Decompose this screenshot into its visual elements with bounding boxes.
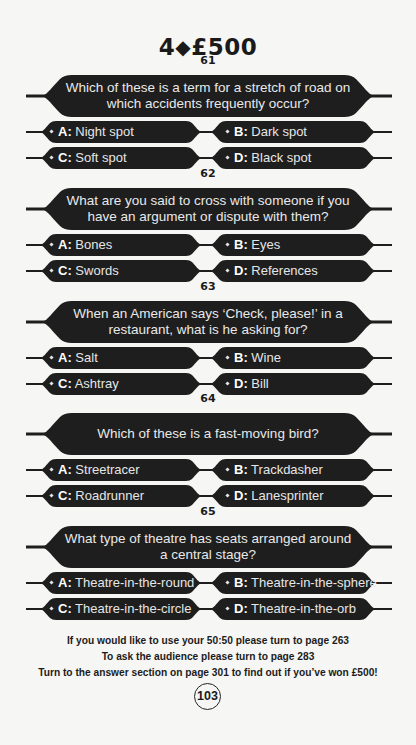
diamond-bullet-icon (49, 129, 53, 133)
answer-text: Theatre-in-the-round (75, 575, 194, 590)
answer-letter: A: (58, 462, 72, 477)
answer-letter: C: (58, 150, 72, 165)
answer-option-b[interactable]: B: Trackdasher (200, 459, 392, 481)
answer-label: A: Night spot (50, 121, 134, 143)
answer-label: B: Dark spot (226, 121, 307, 143)
answer-label: D: Theatre-in-the-orb (226, 598, 356, 620)
diamond-bullet-icon (225, 580, 229, 584)
diamond-bullet-icon (225, 242, 229, 246)
answer-option-d[interactable]: D: Black spot (200, 147, 392, 169)
answer-option-b[interactable]: B: Dark spot (200, 121, 392, 143)
answer-option-d[interactable]: D: Bill (200, 373, 392, 395)
diamond-bullet-icon (49, 268, 53, 272)
answer-option-d[interactable]: D: Lanesprinter (200, 485, 392, 507)
diamond-bullet-icon (49, 606, 53, 610)
answer-option-a[interactable]: A: Night spot (26, 121, 214, 143)
answer-text: Lanesprinter (251, 488, 323, 503)
answer-text: Streetracer (75, 462, 139, 477)
question-banner: Which of these is a fast-moving bird? (0, 413, 416, 455)
answer-text: Black spot (251, 150, 311, 165)
answer-option-c[interactable]: C: Roadrunner (26, 485, 214, 507)
answer-label: A: Bones (50, 234, 112, 256)
answer-option-c[interactable]: C: Theatre-in-the-circle (26, 598, 214, 620)
answer-text: Theatre-in-the-orb (251, 601, 356, 616)
answer-option-a[interactable]: A: Streetracer (26, 459, 214, 481)
question-number: 61 (0, 55, 416, 67)
question-text: What type of theatre has seats arranged … (60, 526, 356, 568)
answer-text: References (251, 263, 317, 278)
page-number: 103 (194, 683, 221, 710)
answer-label: C: Theatre-in-the-circle (50, 598, 191, 620)
answer-label: B: Eyes (226, 234, 280, 256)
answer-option-c[interactable]: C: Ashtray (26, 373, 214, 395)
answer-letter: D: (234, 263, 248, 278)
ask-audience-instruction: To ask the audience please turn to page … (0, 649, 416, 665)
diamond-bullet-icon (49, 467, 53, 471)
diamond-bullet-icon (225, 606, 229, 610)
answer-label: B: Wine (226, 347, 281, 369)
answer-option-c[interactable]: C: Soft spot (26, 147, 214, 169)
answer-option-a[interactable]: A: Bones (26, 234, 214, 256)
question-banner: When an American says ‘Check, please!’ i… (0, 301, 416, 343)
answer-text: Wine (251, 350, 281, 365)
answer-option-b[interactable]: B: Wine (200, 347, 392, 369)
answer-text: Trackdasher (251, 462, 323, 477)
answer-label: C: Swords (50, 260, 119, 282)
answer-label: D: Lanesprinter (226, 485, 324, 507)
fifty-fifty-instruction: If you would like to use your 50:50 plea… (0, 633, 416, 649)
answer-letter: C: (58, 488, 72, 503)
answer-letter: B: (234, 124, 248, 139)
answer-text: Ashtray (75, 376, 119, 391)
diamond-bullet-icon (49, 242, 53, 246)
answer-text: Eyes (251, 237, 280, 252)
answer-letter: D: (234, 601, 248, 616)
answer-text: Night spot (75, 124, 134, 139)
answer-text: Roadrunner (75, 488, 144, 503)
answer-letter: C: (58, 601, 72, 616)
answer-text: Theatre-in-the-sphere (251, 575, 377, 590)
answer-option-a[interactable]: A: Salt (26, 347, 214, 369)
answer-option-b[interactable]: B: Theatre-in-the-sphere (200, 572, 392, 594)
answer-letter: A: (58, 124, 72, 139)
answer-text: Dark spot (251, 124, 307, 139)
footer-instructions: If you would like to use your 50:50 plea… (0, 633, 416, 681)
answer-option-d[interactable]: D: Theatre-in-the-orb (200, 598, 392, 620)
answer-letter: D: (234, 488, 248, 503)
answer-letter: B: (234, 575, 248, 590)
diamond-bullet-icon (225, 493, 229, 497)
answer-letter: B: (234, 237, 248, 252)
diamond-bullet-icon (225, 155, 229, 159)
answer-label: D: Bill (226, 373, 269, 395)
diamond-bullet-icon (225, 355, 229, 359)
answer-label: D: Black spot (226, 147, 311, 169)
answer-option-b[interactable]: B: Eyes (200, 234, 392, 256)
answer-option-a[interactable]: A: Theatre-in-the-round (26, 572, 214, 594)
answer-label: B: Theatre-in-the-sphere (226, 572, 377, 594)
answer-option-c[interactable]: C: Swords (26, 260, 214, 282)
answer-letter: A: (58, 237, 72, 252)
answer-text: Bones (75, 237, 112, 252)
answer-text: Salt (75, 350, 97, 365)
answer-option-d[interactable]: D: References (200, 260, 392, 282)
answer-text: Bill (251, 376, 268, 391)
answer-letter: D: (234, 376, 248, 391)
diamond-bullet-icon (225, 129, 229, 133)
question-text: Which of these is a fast-moving bird? (60, 413, 356, 455)
diamond-bullet-icon (49, 493, 53, 497)
answer-text: Swords (75, 263, 118, 278)
answer-label: B: Trackdasher (226, 459, 323, 481)
answer-letter: B: (234, 462, 248, 477)
question-number: 62 (0, 168, 416, 180)
answer-text: Soft spot (75, 150, 126, 165)
answer-label: D: References (226, 260, 318, 282)
question-banner: Which of these is a term for a stretch o… (0, 75, 416, 117)
answer-label: A: Theatre-in-the-round (50, 572, 194, 594)
answer-label: C: Ashtray (50, 373, 119, 395)
question-number: 65 (0, 506, 416, 518)
answer-letter: C: (58, 263, 72, 278)
answer-label: C: Roadrunner (50, 485, 144, 507)
answer-letter: A: (58, 575, 72, 590)
answer-letter: A: (58, 350, 72, 365)
question-text: When an American says ‘Check, please!’ i… (60, 301, 356, 343)
answer-label: A: Salt (50, 347, 98, 369)
